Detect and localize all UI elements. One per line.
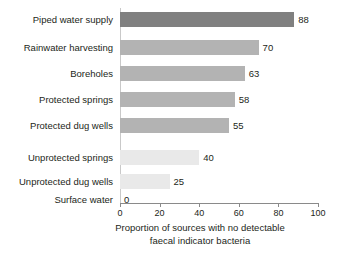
bar-rainwater-harvesting (120, 40, 259, 55)
bar-unprotected-dug-wells (120, 174, 170, 189)
bar-track: 40 (120, 150, 318, 165)
x-axis-tick-label: 100 (303, 207, 333, 219)
x-axis-tick-label: 0 (105, 207, 135, 219)
category-label: Rainwater harvesting (0, 38, 113, 57)
x-axis-tick-label: 40 (184, 207, 214, 219)
bar-track: 55 (120, 118, 318, 133)
bar-value-label: 70 (259, 40, 274, 55)
x-axis-line (120, 203, 318, 204)
bar-track: 58 (120, 92, 318, 107)
category-label: Unprotected springs (0, 148, 113, 167)
category-label: Surface water (0, 190, 113, 209)
bar-value-label: 58 (235, 92, 250, 107)
bar-piped-water-supply (120, 12, 294, 27)
bar-row: Boreholes 63 (0, 64, 343, 83)
bar-track: 63 (120, 66, 318, 81)
bar-track: 88 (120, 12, 318, 27)
bar-chart: Piped water supply 88 Rainwater harvesti… (0, 0, 343, 256)
category-label: Protected dug wells (0, 116, 113, 135)
bar-unprotected-springs (120, 150, 199, 165)
bar-track: 0 (120, 192, 318, 207)
category-label: Unprotected dug wells (0, 172, 113, 191)
bar-boreholes (120, 66, 245, 81)
x-axis-tick-label: 80 (263, 207, 293, 219)
bar-value-label: 40 (199, 150, 214, 165)
plot-area: Piped water supply 88 Rainwater harvesti… (0, 0, 343, 256)
bar-value-label: 25 (170, 174, 185, 189)
bar-track: 25 (120, 174, 318, 189)
bar-value-label: 0 (120, 192, 129, 207)
category-label: Boreholes (0, 64, 113, 83)
bar-protected-dug-wells (120, 118, 229, 133)
bar-track: 70 (120, 40, 318, 55)
bar-row: Unprotected springs 40 (0, 148, 343, 167)
bar-row: Piped water supply 88 (0, 10, 343, 29)
bar-protected-springs (120, 92, 235, 107)
bar-row: Rainwater harvesting 70 (0, 38, 343, 57)
x-axis-title-line-2: faecal indicator bacteria (60, 235, 340, 248)
bar-value-label: 88 (294, 12, 309, 27)
x-axis-title: Proportion of sources with no detectable… (60, 222, 340, 247)
bar-row: Unprotected dug wells 25 (0, 172, 343, 191)
bar-value-label: 63 (245, 66, 260, 81)
x-axis-tick-label: 20 (145, 207, 175, 219)
bar-row: Protected springs 58 (0, 90, 343, 109)
x-axis-title-line-1: Proportion of sources with no detectable (60, 222, 340, 235)
category-label: Protected springs (0, 90, 113, 109)
x-axis-tick-label: 60 (224, 207, 254, 219)
bar-value-label: 55 (229, 118, 244, 133)
category-label: Piped water supply (0, 10, 113, 29)
bar-row: Protected dug wells 55 (0, 116, 343, 135)
